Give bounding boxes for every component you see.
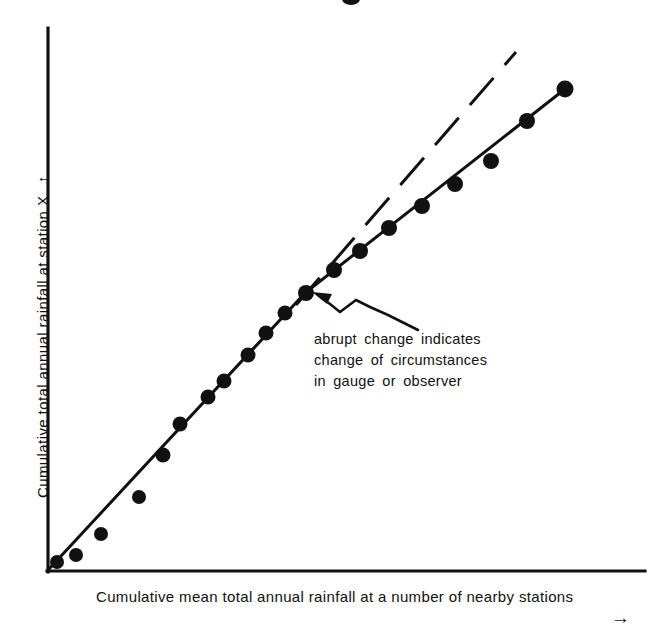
y-axis-label: Cumulative total annual rainfall at stat… [34,175,51,498]
data-point [414,198,430,214]
data-point [298,285,314,301]
data-point [156,448,171,463]
annotation-text-block: abrupt change indicates change of circum… [314,329,540,392]
data-point [278,306,293,321]
data-point [483,153,499,169]
data-point [217,374,232,389]
data-point [557,81,574,98]
annotation-line-3: in gauge or observer [314,371,540,392]
data-point [94,527,108,541]
y-axis-label-text: Cumulative total annual rainfall at stat… [34,196,51,498]
plot-canvas [0,0,663,632]
data-point [326,262,342,278]
x-axis-arrow-icon: → [611,608,630,627]
data-point [259,326,274,341]
x-axis-label: Cumulative mean total annual rainfall at… [96,588,573,605]
data-point [69,548,83,562]
data-point [381,220,397,236]
data-point [519,113,535,129]
data-point [447,176,463,192]
annotation-line-1: abrupt change indicates [314,329,540,350]
data-point [50,555,64,569]
data-point [132,490,146,504]
scan-artifact-mark [342,0,360,5]
data-point [173,417,188,432]
data-point [241,348,256,363]
callout-leader [312,292,418,330]
data-point [352,243,368,259]
y-axis-arrow-icon: ↑ [34,175,51,183]
double-mass-curve-figure: Cumulative total annual rainfall at stat… [0,0,663,632]
data-point [201,390,216,405]
data-point-group [50,81,574,570]
annotation-line-2: change of circumstances [314,350,540,371]
